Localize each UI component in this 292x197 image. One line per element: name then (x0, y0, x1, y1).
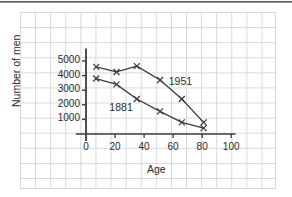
chart-figure: Number of men Age 1000200030004000500002… (0, 3, 292, 197)
x-axis-label: Age (147, 163, 166, 175)
x-tick-label: 40 (132, 141, 156, 152)
y-tick-label: 3000 (46, 83, 80, 94)
data-point-marker (134, 96, 140, 102)
x-tick-label: 0 (74, 141, 98, 152)
chart-plot-area (0, 3, 292, 197)
x-tick-label: 100 (219, 141, 243, 152)
y-axis-label: Number of men (10, 35, 22, 107)
data-point-marker (157, 77, 163, 83)
x-tick-label: 20 (103, 141, 127, 152)
data-point-marker (157, 108, 163, 114)
y-tick-label: 2000 (46, 98, 80, 109)
y-tick-label: 1000 (46, 112, 80, 123)
series-label-1951: 1951 (169, 75, 192, 87)
data-point-marker (179, 96, 185, 102)
y-tick-label: 4000 (46, 69, 80, 80)
series-label-1881: 1881 (109, 101, 132, 113)
x-tick-label: 60 (161, 141, 185, 152)
y-tick-label: 5000 (46, 54, 80, 65)
data-point-marker (201, 119, 207, 125)
x-tick-label: 80 (190, 141, 214, 152)
